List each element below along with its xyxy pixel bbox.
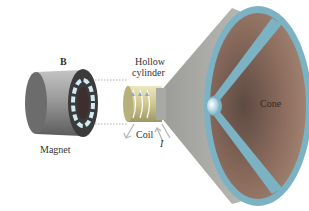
current-label: I: [160, 138, 163, 149]
coil-label: Coil: [136, 129, 153, 140]
hollow-cylinder-label-line2: cylinder: [132, 67, 165, 78]
magnet-label: Magnet: [40, 144, 71, 155]
hollow-cylinder-label-line1: Hollow: [135, 56, 165, 67]
cone-label: Cone: [260, 98, 281, 109]
magnet: [25, 69, 98, 137]
speaker-cone: [160, 6, 309, 206]
voice-coil: [123, 86, 166, 122]
field-label-b: B: [60, 56, 67, 67]
